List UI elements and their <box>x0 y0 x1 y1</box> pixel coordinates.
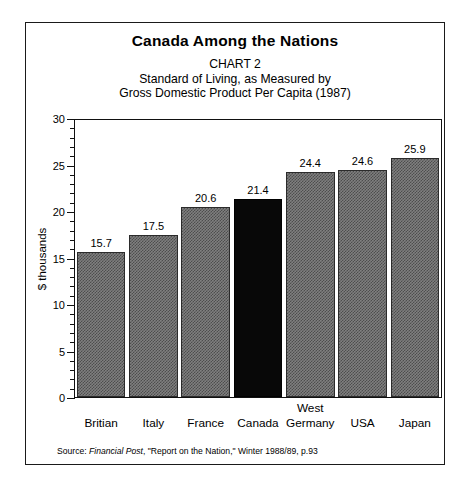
bar-britian[interactable] <box>77 252 126 397</box>
y-axis-title: $ thousands <box>34 119 50 398</box>
bar-slot: 24.6 <box>336 120 388 397</box>
chart-number: CHART 2 <box>26 57 444 72</box>
y-tick-label: 30 <box>53 113 65 125</box>
bar-value-label: 24.6 <box>336 155 388 168</box>
bar-value-label: 25.9 <box>389 143 441 156</box>
subtitle-line-2: Gross Domestic Product Per Capita (1987) <box>26 86 444 101</box>
page-title: Canada Among the Nations <box>26 31 444 51</box>
bar-slot: 15.7 <box>75 120 127 397</box>
bar-value-label: 24.4 <box>284 157 336 170</box>
y-tick-label: 0 <box>59 392 65 404</box>
y-tick-label: 10 <box>53 299 65 311</box>
bar-canada[interactable] <box>234 199 283 397</box>
bar-japan[interactable] <box>391 158 440 397</box>
bar-slot: 25.9 <box>389 120 441 397</box>
bar-value-label: 17.5 <box>127 220 179 233</box>
bar-slot: 24.4 <box>284 120 336 397</box>
bar-italy[interactable] <box>129 235 178 397</box>
x-axis-label-top-line: West <box>284 401 336 416</box>
bar-value-label: 15.7 <box>75 237 127 250</box>
x-axis-label-main-line: Italy <box>127 416 179 431</box>
source-publication: Financial Post <box>89 446 143 456</box>
x-axis-label-main-line: Japan <box>389 416 441 431</box>
x-axis-label-top-line <box>232 401 284 416</box>
x-axis-label-japan: Japan <box>389 401 441 441</box>
y-tick-label: 25 <box>53 160 65 172</box>
y-tick-label: 5 <box>59 346 65 358</box>
x-axis-label-main-line: France <box>180 416 232 431</box>
x-axis-label-britian: Britian <box>75 401 127 441</box>
bar-usa[interactable] <box>338 170 387 397</box>
x-axis-label-west-germany: WestGermany <box>284 401 336 441</box>
bar-slot: 17.5 <box>127 120 179 397</box>
bar-series: 15.717.520.621.424.424.625.9 <box>75 120 441 397</box>
plot-area: 051015202530 15.717.520.621.424.424.625.… <box>74 119 442 398</box>
x-axis-label-top-line <box>75 401 127 416</box>
y-tick-label: 15 <box>53 253 65 265</box>
y-tick-major <box>67 398 75 399</box>
y-axis-title-text: $ thousands <box>36 227 48 290</box>
bar-value-label: 20.6 <box>180 192 232 205</box>
bar-france[interactable] <box>181 207 230 397</box>
bar-slot: 20.6 <box>180 120 232 397</box>
source-prefix: Source: <box>57 446 89 456</box>
bar-slot: 21.4 <box>232 120 284 397</box>
x-axis-label-main-line: Britian <box>75 416 127 431</box>
x-axis-label-usa: USA <box>336 401 388 441</box>
subtitle-block: CHART 2 Standard of Living, as Measured … <box>26 57 444 101</box>
x-axis-label-main-line: USA <box>336 416 388 431</box>
title-block: Canada Among the Nations CHART 2 Standar… <box>26 31 444 101</box>
chart-figure-frame: Canada Among the Nations CHART 2 Standar… <box>25 22 445 465</box>
x-axis-label-france: France <box>180 401 232 441</box>
x-axis-label-canada: Canada <box>232 401 284 441</box>
x-axis-label-main-line: Canada <box>232 416 284 431</box>
bar-west-germany[interactable] <box>286 172 335 397</box>
x-axis-label-top-line <box>336 401 388 416</box>
source-suffix: , "Report on the Nation," Winter 1988/89… <box>143 446 318 456</box>
x-axis-label-top-line <box>127 401 179 416</box>
x-axis-label-italy: Italy <box>127 401 179 441</box>
source-note: Source: Financial Post, "Report on the N… <box>57 446 318 457</box>
y-tick-label: 20 <box>53 206 65 218</box>
x-axis-label-main-line: Germany <box>284 416 336 431</box>
x-axis-category-labels: BritianItalyFranceCanadaWestGermanyUSAJa… <box>75 401 441 441</box>
subtitle-line-1: Standard of Living, as Measured by <box>26 72 444 87</box>
x-axis-label-top-line <box>180 401 232 416</box>
x-axis-label-top-line <box>389 401 441 416</box>
bar-value-label: 21.4 <box>232 184 284 197</box>
